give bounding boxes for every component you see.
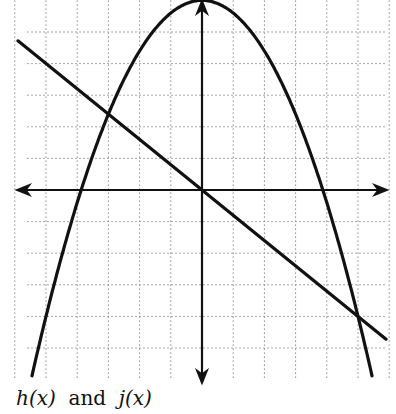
caption-and: and [68, 386, 106, 410]
h-label: h(x) [16, 386, 56, 410]
graph [0, 0, 396, 390]
chart-caption: h(x) and j(x) [16, 386, 152, 410]
j-label: j(x) [119, 386, 152, 410]
